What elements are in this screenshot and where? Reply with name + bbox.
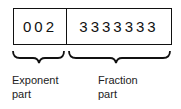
exponent-brace-icon [13, 51, 64, 63]
fraction-brace-icon [69, 51, 170, 63]
exponent-label-line2: part [12, 87, 58, 101]
fraction-label-line1: Fraction [98, 73, 138, 87]
fraction-label-line2: part [98, 87, 138, 101]
fraction-part-label: Fraction part [98, 73, 138, 101]
exponent-part-label: Exponent part [12, 73, 58, 101]
exponent-label-line1: Exponent [12, 73, 58, 87]
